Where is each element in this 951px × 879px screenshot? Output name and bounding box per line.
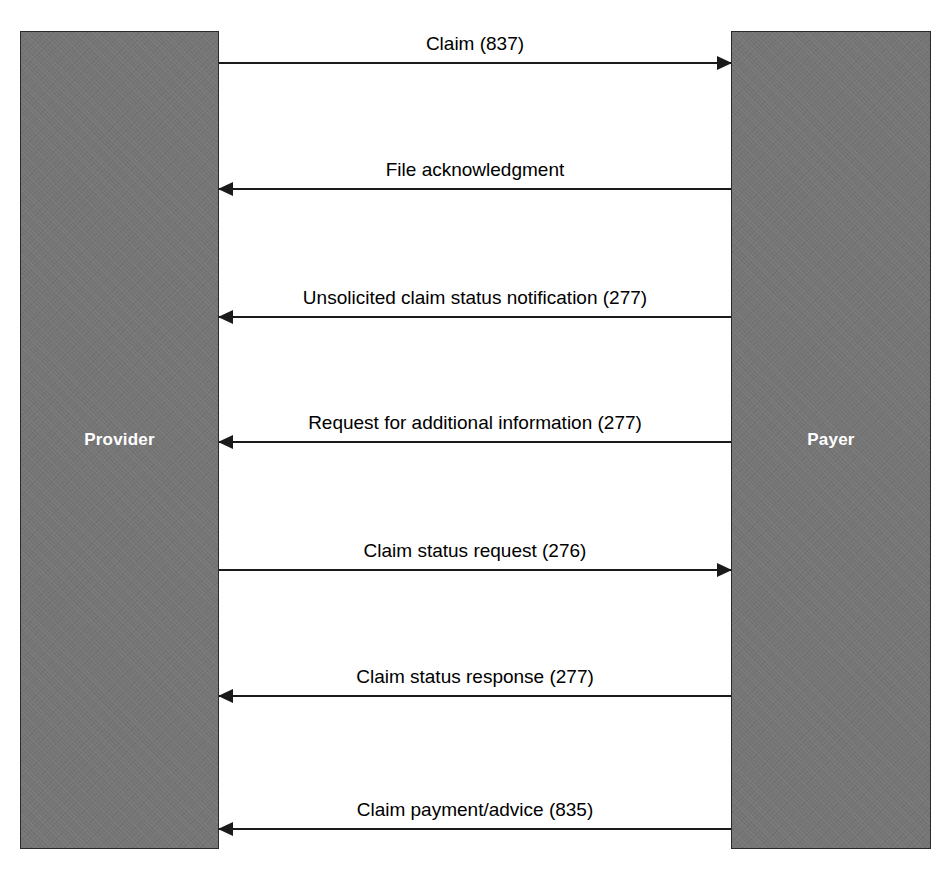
message-label: Unsolicited claim status notification (2… — [219, 287, 731, 309]
message-line — [219, 441, 731, 443]
message-label: Request for additional information (277) — [219, 412, 731, 434]
message-label: Claim (837) — [219, 33, 731, 55]
message-line — [219, 569, 731, 571]
message-line — [219, 316, 731, 318]
arrowhead-left-icon — [218, 435, 233, 449]
message-line — [219, 695, 731, 697]
message-label: Claim payment/advice (835) — [219, 799, 731, 821]
arrowhead-left-icon — [218, 689, 233, 703]
lifeline-payer: Payer — [731, 31, 931, 849]
arrowhead-right-icon — [717, 563, 732, 577]
message-line — [219, 828, 731, 830]
message-label: Claim status request (276) — [219, 540, 731, 562]
lifeline-provider-label: Provider — [21, 430, 218, 450]
sequence-diagram-canvas: Provider Payer Claim (837) File acknowle… — [0, 0, 951, 879]
message-label: Claim status response (277) — [219, 666, 731, 688]
message-line — [219, 188, 731, 190]
arrowhead-right-icon — [717, 56, 732, 70]
arrowhead-left-icon — [218, 310, 233, 324]
lifeline-payer-label: Payer — [732, 430, 930, 450]
message-label: File acknowledgment — [219, 159, 731, 181]
arrowhead-left-icon — [218, 182, 233, 196]
lifeline-provider: Provider — [20, 31, 219, 849]
message-line — [219, 62, 731, 64]
arrowhead-left-icon — [218, 822, 233, 836]
